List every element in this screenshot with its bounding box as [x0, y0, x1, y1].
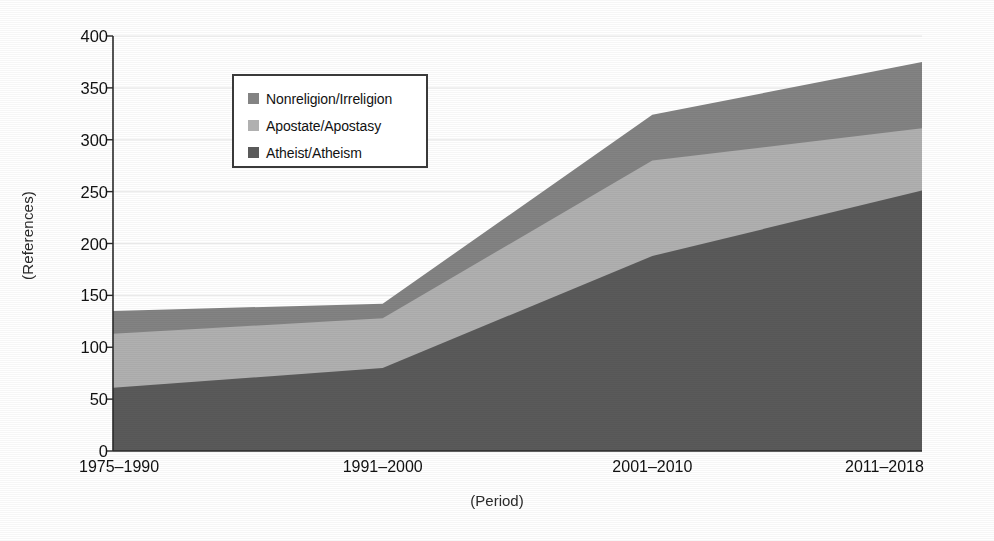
y-tick-label: 400	[60, 28, 108, 45]
y-tick-label: 0	[60, 443, 108, 460]
legend-item-label: Apostate/Apostasy	[266, 118, 381, 134]
y-tick-label: 150	[60, 287, 108, 304]
x-axis-title-text: (Period)	[470, 492, 523, 509]
legend-swatch-icon	[248, 120, 259, 131]
x-axis-title: (Period)	[0, 492, 994, 509]
y-tick-label: 300	[60, 132, 108, 149]
y-tick-label: 200	[60, 235, 108, 252]
legend-swatch-icon	[248, 147, 259, 158]
x-tick-label: 2001–2010	[612, 458, 692, 476]
legend-item[interactable]: Apostate/Apostasy	[248, 113, 426, 138]
stacked-area-chart: (References) 050100150200250300350400 19…	[0, 0, 994, 541]
legend-item[interactable]: Nonreligion/Irreligion	[248, 86, 426, 111]
y-tick-label: 350	[60, 80, 108, 97]
legend-item-label: Nonreligion/Irreligion	[266, 91, 392, 107]
x-tick-label: 1991–2000	[343, 458, 423, 476]
y-tick-label: 250	[60, 183, 108, 200]
legend-swatch-icon	[248, 93, 259, 104]
y-tick-label: 100	[60, 339, 108, 356]
legend-item[interactable]: Atheist/Atheism	[248, 140, 426, 165]
chart-legend: Nonreligion/IrreligionApostate/ApostasyA…	[232, 74, 428, 168]
x-tick-label: 2011–2018	[845, 458, 924, 476]
legend-item-label: Atheist/Atheism	[266, 145, 362, 161]
y-tick-label: 50	[60, 391, 108, 408]
x-tick-label: 1975–1990	[79, 458, 159, 476]
